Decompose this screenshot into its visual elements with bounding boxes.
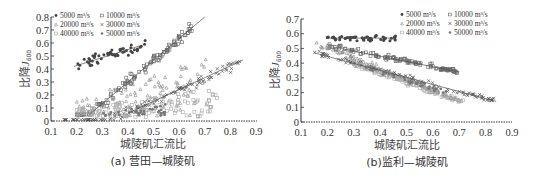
x-tick-label: 0.7: [198, 126, 211, 137]
y-tick-label: 0.8: [36, 12, 49, 23]
y-tick-label: 0.7: [286, 14, 299, 25]
x-tick-label: 0.5: [147, 126, 160, 137]
legend-a: 5000 m³/s10000 m³/s20000 m³/s30000 m³/s4…: [55, 11, 140, 38]
x-tick-label: 0.9: [505, 127, 518, 138]
legend-item-label: 20000 m³/s: [406, 19, 440, 28]
x-tick-label: 0.8: [224, 126, 237, 137]
x-tick-label: 0.9: [249, 126, 262, 137]
y-tick-label: 0.3: [286, 72, 299, 83]
y-tick-label: 0.2: [36, 90, 49, 101]
x-tick-label: 0.4: [121, 126, 135, 137]
x-tick-label: 0.1: [294, 127, 307, 138]
chart-b: 00.10.20.30.40.50.60.7 0.10.20.30.40.50.…: [268, 10, 519, 169]
y-tick-label: 0.5: [36, 51, 49, 62]
x-tick-label: 0.3: [96, 126, 109, 137]
y-axis-title-b: 比降J600: [268, 51, 282, 90]
x-tick-label: 0.1: [44, 126, 57, 137]
legend-item-label: 20000 m³/s: [60, 20, 94, 29]
y-tick-label: 0.4: [36, 64, 50, 75]
caption-a: (a) 营田—城陵矶: [111, 154, 196, 168]
x-axis-title-b: 城陵矶汇流比: [374, 138, 440, 152]
y-tick-label: 0.1: [36, 103, 49, 114]
y-tick-label: 0.6: [286, 28, 299, 39]
legend-item-label: 5000 m³/s: [60, 11, 90, 20]
x-tick-label: 0.4: [374, 127, 388, 138]
legend-item-label: 10000 m³/s: [106, 11, 140, 20]
x-tick-label: 0.6: [173, 126, 186, 137]
legend-item-label: 10000 m³/s: [454, 10, 488, 19]
y-tick-label: 0.4: [286, 58, 300, 69]
trend-lines-b: [314, 38, 496, 101]
legend-item-label: 30000 m³/s: [454, 19, 488, 28]
y-axis-title-a: 比降J600: [18, 50, 32, 89]
legend-item-label: 5000 m³/s: [406, 10, 436, 19]
trend-line: [74, 46, 141, 67]
y-tick-label: 0: [44, 116, 49, 127]
chart-a: 00.10.20.30.40.50.60.70.8 0.10.20.30.40.…: [18, 11, 263, 168]
legend-item-label: 50000 m³/s: [106, 29, 140, 38]
y-tick-label: 0.1: [286, 102, 299, 113]
x-tick-label: 0.6: [426, 127, 439, 138]
figure: 00.10.20.30.40.50.60.70.8 0.10.20.30.40.…: [0, 0, 535, 180]
y-tick-label: 0.2: [286, 87, 299, 98]
y-tick-label: 0: [294, 117, 299, 128]
scatter-points-b: [313, 34, 495, 103]
y-tick-label: 0.3: [36, 77, 49, 88]
y-tick-label: 0.6: [36, 38, 49, 49]
legend-b: 5000 m³/s10000 m³/s20000 m³/s30000 m³/s4…: [401, 10, 488, 37]
x-ticks-b: 0.10.20.30.40.50.60.70.80.9: [294, 127, 518, 138]
x-tick-label: 0.3: [347, 127, 360, 138]
x-axis-title-a: 城陵矶汇流比: [120, 137, 186, 151]
legend-item-label: 30000 m³/s: [106, 20, 140, 29]
legend-item-label: 50000 m³/s: [454, 28, 488, 37]
legend-item-label: 40000 m³/s: [406, 28, 440, 37]
y-tick-label: 0.7: [36, 25, 49, 36]
legend-item-label: 40000 m³/s: [60, 29, 94, 38]
x-tick-label: 0.2: [321, 127, 334, 138]
x-ticks-a: 0.10.20.30.40.50.60.70.80.9: [44, 126, 262, 137]
x-tick-label: 0.7: [453, 127, 466, 138]
x-tick-label: 0.2: [70, 126, 83, 137]
y-tick-label: 0.5: [286, 43, 299, 54]
caption-b: (b)监利—城陵矶: [366, 156, 448, 169]
x-tick-label: 0.8: [479, 127, 492, 138]
x-tick-label: 0.5: [400, 127, 413, 138]
